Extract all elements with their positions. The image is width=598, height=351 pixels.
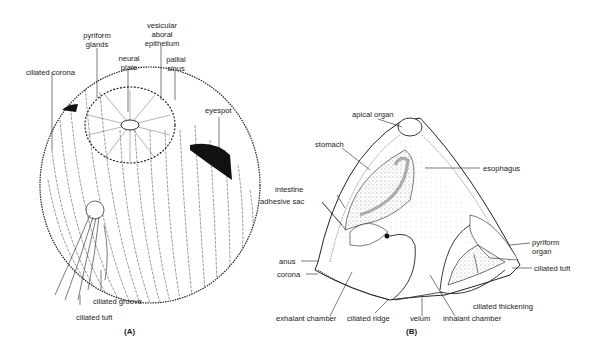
label-corona: corona	[277, 270, 300, 279]
label-line: neural	[116, 54, 142, 63]
label-ciliated-tuft-a: ciliated tuft	[76, 313, 112, 322]
caption-a: (A)	[124, 327, 135, 336]
label-pallial-sinus: pallial sinus	[163, 55, 189, 73]
caption-b: (B)	[406, 327, 417, 336]
label-line: pyriform	[532, 238, 559, 247]
label-exhalant-chamber: exhalant chamber	[276, 314, 336, 323]
label-ciliated-ridge: ciliated ridge	[347, 314, 390, 323]
panel-a-drawing	[40, 67, 260, 303]
label-pyriform-organ: pyriform organ	[532, 238, 559, 256]
label-eyespot: eyespot	[205, 106, 232, 115]
panel-b-drawing	[315, 118, 520, 300]
label-stomach: stomach	[315, 140, 344, 149]
label-velum: velum	[410, 314, 430, 323]
label-pyriform-glands: pyriform glands	[82, 31, 112, 49]
label-line: pallial	[163, 55, 189, 64]
label-line: plate	[116, 63, 142, 72]
label-anus: anus	[279, 257, 295, 266]
label-ciliated-thickening: ciliated thickening	[473, 302, 533, 311]
label-adhesive-sac: adhesive sac	[260, 197, 304, 206]
label-esophagus: esophagus	[483, 164, 520, 173]
label-line: glands	[82, 40, 112, 49]
label-apical-organ: apical organ	[352, 110, 393, 119]
label-ciliated-corona: ciliated corona	[26, 68, 75, 77]
label-neural-plate: neural plate	[116, 54, 142, 72]
label-line: organ	[532, 247, 559, 256]
label-line: pyriform	[82, 31, 112, 40]
label-line: sinus	[163, 64, 189, 73]
label-inhalant-chamber: inhalant chamber	[443, 314, 501, 323]
label-ciliated-groove: ciliated groove	[93, 297, 142, 306]
label-line: epithelium	[140, 39, 184, 48]
label-intestine: intestine	[275, 185, 303, 194]
label-ciliated-tuft-b: ciliated tuft	[534, 264, 570, 273]
label-vesicular-aboral-epithelium: vesicular aboral epithelium	[140, 21, 184, 48]
label-line: vesicular	[140, 21, 184, 30]
label-line: aboral	[140, 30, 184, 39]
larva-diagram-drawing	[0, 0, 598, 351]
